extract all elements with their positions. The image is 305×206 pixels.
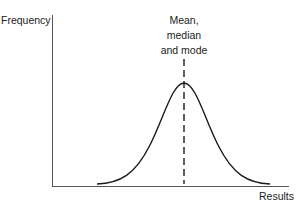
annotation-label: Mean, median and mode: [149, 13, 219, 58]
x-axis-label: Results: [259, 190, 294, 202]
annotation-line-1: Mean,: [149, 13, 219, 28]
y-axis-label: Frequency: [1, 14, 51, 26]
annotation-line-2: median: [149, 28, 219, 43]
annotation-line-3: and mode: [149, 43, 219, 58]
